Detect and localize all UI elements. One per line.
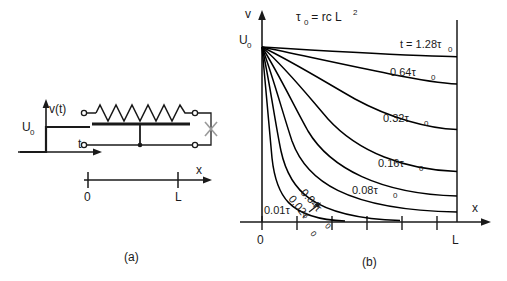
curve-label-1p28tau-text: t = 1.28τ: [400, 38, 442, 50]
distributed-resistor-icon: [96, 105, 192, 121]
curve-label-0p16tau-sub: 0: [419, 164, 424, 173]
panel-b: τ 0 = rc L 2 v U 0 x 0 L: [239, 7, 491, 269]
curve-label-0p32tau: 0.32τ 0: [383, 112, 429, 128]
terminal-top-right: [192, 110, 197, 115]
curve-label-0p01tau-text: 0.01τ: [264, 204, 290, 216]
x-tick-label-0: 0: [257, 233, 264, 247]
figure-svg: v(t) U 0 t: [0, 0, 507, 281]
curve-0p32tau: [262, 47, 457, 130]
curve-label-0p32tau-sub: 0: [424, 119, 429, 128]
position-tick-label-0: 0: [84, 190, 91, 204]
panel-a-caption: (a): [124, 250, 139, 264]
v-axis-label: v: [245, 7, 251, 21]
position-tick-label-L: L: [175, 190, 182, 204]
title-exponent: 2: [353, 8, 358, 17]
curve-label-0p16tau: 0.16τ 0: [378, 157, 424, 173]
curve-label-0p64tau: 0.64τ 0: [390, 66, 436, 82]
v-origin-sublabel: 0: [247, 41, 252, 50]
curve-label-1p28tau-sub: 0: [448, 45, 453, 54]
curve-label-0p32tau-text: 0.32τ: [383, 112, 409, 124]
curve-label-0p08tau-sub: 0: [393, 191, 398, 200]
v-axis-arrowhead: [258, 10, 266, 20]
curve-label-0p64tau-text: 0.64τ: [390, 66, 416, 78]
x-axis-arrowhead: [481, 218, 491, 226]
right-return-path: [198, 113, 211, 145]
curve-label-0p01tau-sub: 0: [303, 211, 308, 220]
terminal-bottom-right: [192, 142, 197, 147]
x-axis-label: x: [472, 201, 478, 215]
inset-t-axis-arrowhead: [93, 149, 102, 156]
curve-label-1p28tau: t = 1.28τ 0: [400, 38, 453, 54]
rc-circuit: [81, 105, 217, 148]
title-expression: = rc L: [308, 10, 342, 24]
step-input-inset: v(t) U 0 t: [18, 99, 102, 155]
inset-v-axis-label: v(t): [49, 102, 66, 116]
curve-label-0p08tau-text: 0.08τ: [352, 184, 378, 196]
panel-b-caption: (b): [362, 255, 377, 269]
terminal-bottom-left: [81, 142, 86, 147]
position-axis-arrowhead: [203, 177, 212, 184]
position-axis-label: x: [196, 163, 202, 177]
panel-b-title: τ 0 = rc L 2: [296, 8, 358, 27]
curve-label-0p64tau-sub: 0: [431, 73, 436, 82]
panel-a: v(t) U 0 t: [18, 99, 217, 264]
curve-0p16tau: [262, 47, 457, 172]
curve-label-0p02tau-sub: 0: [309, 229, 319, 238]
inset-level-sublabel: 0: [30, 128, 35, 137]
terminal-top-left: [81, 110, 86, 115]
figure-root: v(t) U 0 t: [0, 0, 507, 281]
position-axis-a: 0 L x: [84, 163, 212, 204]
curve-label-0p16tau-text: 0.16τ: [378, 157, 404, 169]
x-tick-label-L: L: [452, 233, 459, 247]
title-tau: τ: [296, 10, 301, 24]
